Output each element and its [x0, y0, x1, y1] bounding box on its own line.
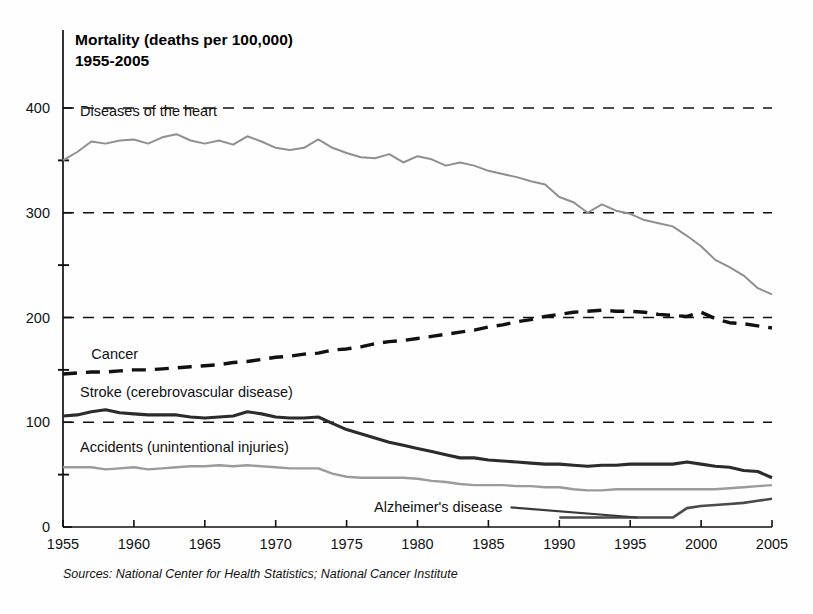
chart-subtitle: 1955-2005 [75, 52, 150, 69]
series-label-stroke-cerebrovascular-disease: Stroke (cerebrovascular disease) [80, 384, 293, 400]
x-tick-label-1995: 1995 [614, 536, 646, 552]
y-tick-label-400: 400 [26, 100, 50, 116]
series-label-alzheimer-s-disease: Alzheimer's disease [374, 499, 503, 515]
y-tick-label-100: 100 [26, 414, 50, 430]
chart-background [0, 0, 813, 614]
x-tick-label-1965: 1965 [189, 536, 221, 552]
y-tick-label-200: 200 [26, 310, 50, 326]
x-tick-label-1980: 1980 [401, 536, 433, 552]
series-label-accidents-unintentional-injuries: Accidents (unintentional injuries) [80, 439, 289, 455]
y-tick-label-300: 300 [26, 205, 50, 221]
x-tick-label-1975: 1975 [330, 536, 362, 552]
x-tick-label-1970: 1970 [260, 536, 292, 552]
x-tick-label-2005: 2005 [756, 536, 788, 552]
x-tick-label-1990: 1990 [543, 536, 575, 552]
source-note: Sources: National Center for Health Stat… [63, 567, 458, 581]
x-tick-label-2000: 2000 [685, 536, 717, 552]
series-label-cancer: Cancer [91, 346, 138, 362]
mortality-line-chart: 0100200300400 19551960196519701975198019… [0, 0, 813, 614]
chart-figure: 0100200300400 19551960196519701975198019… [0, 0, 813, 614]
chart-title: Mortality (deaths per 100,000) [75, 31, 293, 48]
y-tick-label-0: 0 [42, 519, 50, 535]
x-tick-label-1955: 1955 [47, 536, 79, 552]
x-tick-label-1960: 1960 [118, 536, 150, 552]
x-tick-label-1985: 1985 [472, 536, 504, 552]
series-label-diseases-of-the-heart: Diseases of the heart [80, 103, 217, 119]
